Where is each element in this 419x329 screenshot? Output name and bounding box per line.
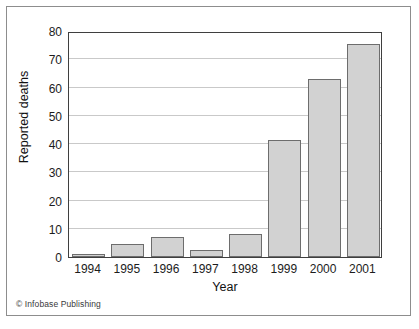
bar: [151, 237, 184, 257]
bar: [111, 244, 144, 257]
x-axis-tick-label: 1999: [264, 262, 303, 276]
x-axis-tick-label: 1996: [147, 262, 186, 276]
bar: [347, 44, 380, 257]
y-axis-tick-label: 70: [34, 54, 62, 66]
x-axis-tick-label: 1995: [107, 262, 146, 276]
x-axis-tick-label: 2001: [343, 262, 382, 276]
bar: [190, 250, 223, 257]
plot-area: [68, 32, 382, 258]
x-axis-tick-label: 2000: [304, 262, 343, 276]
y-axis-tick-labels: 01020304050607080: [34, 0, 62, 329]
chart-figure: Reported deaths 01020304050607080 199419…: [0, 0, 419, 329]
x-axis-title: Year: [68, 280, 382, 294]
publisher-credit: © Infobase Publishing: [16, 299, 101, 309]
y-axis-title: Reported deaths: [17, 52, 31, 182]
y-axis-tick-label: 20: [34, 196, 62, 208]
y-axis-tick-label: 80: [34, 26, 62, 38]
x-axis-tick-labels: 19941995199619971998199920002001: [68, 262, 382, 278]
y-axis-tick-label: 0: [34, 252, 62, 264]
x-axis-tick-label: 1998: [225, 262, 264, 276]
y-axis-tick-label: 10: [34, 224, 62, 236]
bar: [268, 140, 301, 257]
x-axis-tick-label: 1994: [68, 262, 107, 276]
gridline: [69, 58, 381, 59]
bar: [229, 234, 262, 257]
y-axis-tick-label: 40: [34, 139, 62, 151]
bar: [308, 79, 341, 257]
y-axis-tick-label: 30: [34, 167, 62, 179]
y-axis-tick-label: 60: [34, 83, 62, 95]
y-axis-tick-label: 50: [34, 111, 62, 123]
x-axis-tick-label: 1997: [186, 262, 225, 276]
bar: [72, 254, 105, 257]
